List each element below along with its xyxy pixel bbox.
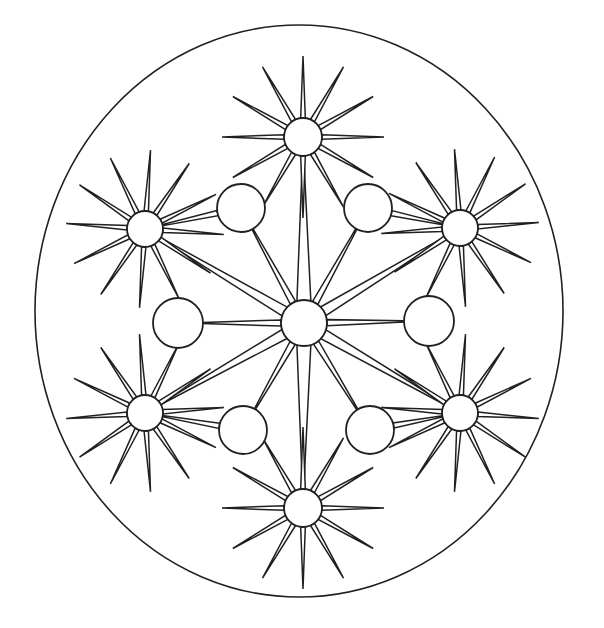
center-star-hub [281, 300, 327, 346]
plain-circle-upper-right [344, 184, 392, 232]
mandala-canvas [0, 0, 604, 628]
satellite-star-bottom-hub [284, 489, 322, 527]
satellite-star-top-hub [284, 118, 322, 156]
mandala-artwork [0, 0, 604, 628]
center-star-layer [281, 300, 327, 346]
plain-circle-lower-left [219, 406, 267, 454]
satellite-star-upper-left-hub [127, 211, 163, 247]
satellite-star-lower-right-hub [442, 395, 478, 431]
satellite-star-lower-left-hub [127, 395, 163, 431]
plain-circle-left [153, 298, 203, 348]
satellite-star-upper-right-hub [442, 210, 478, 246]
plain-circle-lower-right [346, 406, 394, 454]
plain-circle-upper-left [217, 184, 265, 232]
plain-circle-right [404, 296, 454, 346]
